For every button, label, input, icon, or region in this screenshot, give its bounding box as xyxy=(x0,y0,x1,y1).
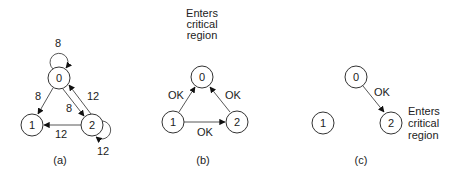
caption-c: (c) xyxy=(355,154,368,166)
svg-text:2: 2 xyxy=(388,117,394,129)
edge-label-b-1-2: OK xyxy=(197,126,214,138)
node-a-2: 2 xyxy=(81,114,103,136)
svg-text:0: 0 xyxy=(56,72,62,84)
node-c-2: 2 xyxy=(380,112,402,134)
svg-text:0: 0 xyxy=(353,71,359,83)
panel-b: Enters critical region OK OK OK 0 1 2 (b… xyxy=(162,7,248,166)
svg-text:1: 1 xyxy=(320,117,326,129)
distributed-mutex-diagram: 8 8 8 12 12 12 0 1 2 (a) Enters xyxy=(0,0,454,178)
node-a-0: 0 xyxy=(48,67,70,89)
edge-label-a-0-0: 8 xyxy=(55,37,61,49)
caption-a: (a) xyxy=(53,154,66,166)
node-c-1: 1 xyxy=(312,112,334,134)
note-c-line1: Enters xyxy=(408,105,440,117)
panel-a: 8 8 8 12 12 12 0 1 2 (a) xyxy=(21,37,111,166)
note-c-line3: region xyxy=(408,129,439,141)
note-c-line2: critical xyxy=(408,117,439,129)
node-c-0: 0 xyxy=(345,66,367,88)
edge-label-c-0-2: OK xyxy=(374,86,391,98)
note-b-line3: region xyxy=(187,29,218,41)
edge-label-a-2-0: 12 xyxy=(87,90,99,102)
node-b-0: 0 xyxy=(191,66,213,88)
edge-label-a-0-2: 8 xyxy=(66,102,72,114)
panel-c: OK 0 1 2 Enters critical region (c) xyxy=(312,66,440,166)
edge-label-a-2-1: 12 xyxy=(55,128,67,140)
svg-text:2: 2 xyxy=(89,119,95,131)
svg-text:1: 1 xyxy=(170,116,176,128)
node-b-1: 1 xyxy=(162,111,184,133)
node-b-2: 2 xyxy=(226,111,248,133)
edge-label-a-2-2: 12 xyxy=(97,145,109,157)
edge-label-b-2-0: OK xyxy=(225,89,242,101)
edge-label-b-1-0: OK xyxy=(168,89,185,101)
edge-label-a-0-1: 8 xyxy=(35,90,41,102)
caption-b: (b) xyxy=(196,154,209,166)
svg-text:1: 1 xyxy=(29,119,35,131)
svg-text:0: 0 xyxy=(199,71,205,83)
svg-text:2: 2 xyxy=(234,116,240,128)
node-a-1: 1 xyxy=(21,114,43,136)
